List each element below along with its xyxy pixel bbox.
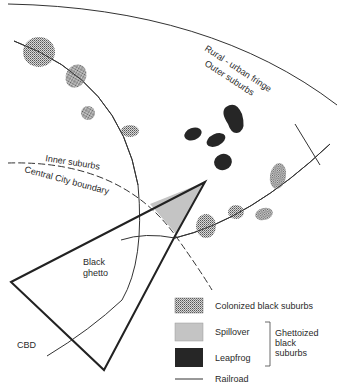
leapfrog-suburbs [182,105,243,173]
legend-group-label-2: black [275,338,297,348]
legend-swatch-colonized [175,298,203,313]
legend-swatch-leapfrog [175,348,203,367]
urban-diagram: Rural - urban fringe Outer suburbs Inner… [0,0,337,389]
cbd-label: CBD [17,340,37,350]
legend: Colonized black suburbs Spillover Leapfr… [175,298,319,384]
legend-bracket [265,322,270,366]
legend-label-railroad: Railroad [215,374,249,384]
black-ghetto-label-1: Black [83,257,106,267]
railroad-line-1 [14,41,140,356]
legend-group-label-1: Ghettoized [275,328,319,338]
rural-urban-fringe-line [8,4,337,105]
legend-label-colonized: Colonized black suburbs [215,301,314,311]
legend-swatch-spillover [175,323,203,341]
fringe-cross-tick [295,124,320,165]
legend-label-spillover: Spillover [215,327,250,337]
legend-group-label-3: suburbs [275,348,308,358]
legend-label-leapfrog: Leapfrog [215,353,251,363]
black-ghetto-label-2: ghetto [83,268,108,278]
